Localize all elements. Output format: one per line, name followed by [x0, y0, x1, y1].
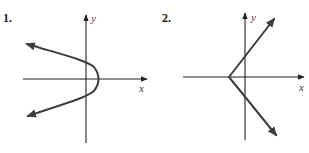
graph-1: 1. y x	[3, 11, 147, 143]
graph-2: 2. y x	[162, 11, 304, 140]
graph-2-y-axis-label: y	[250, 11, 256, 23]
graph-1-x-axis-label: x	[138, 82, 144, 94]
graph-1-y-axis-label: y	[90, 12, 96, 24]
graph-1-number-label: 1.	[3, 11, 12, 25]
graph-2-x-axis-label: x	[298, 81, 304, 93]
graphs-canvas: 1. y x 2. y x	[0, 0, 309, 153]
graph-2-number-label: 2.	[162, 11, 171, 25]
graph-1-parabola	[27, 44, 99, 116]
